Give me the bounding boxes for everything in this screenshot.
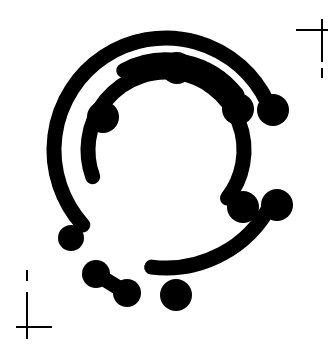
inner-c-arc-right-ball: [227, 191, 259, 223]
dumbbell-right-ball: [113, 279, 141, 307]
inner-c-arc-top-left-ball: [87, 101, 119, 133]
lower-outer-arc-top-ball: [261, 189, 293, 221]
logo-artwork: [0, 0, 332, 359]
image-canvas: [0, 0, 332, 359]
upper-inner-arc-left-ball: [161, 52, 193, 84]
dumbbell-left-ball: [82, 260, 110, 288]
lower-outer-arc-left-ball: [160, 279, 192, 311]
outer-arc-bottom-left-ball: [58, 225, 84, 251]
outer-arc-right-ball: [257, 94, 289, 126]
upper-inner-arc-right-ball: [222, 93, 254, 125]
